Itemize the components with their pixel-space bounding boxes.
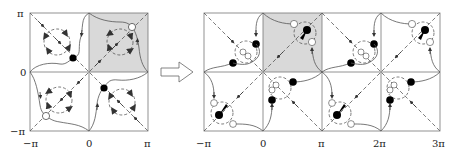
left-x-tick-right: π [144, 138, 151, 149]
right-panel: −π 0 π 2π 3π [196, 13, 445, 149]
left-y-tick-top: π [17, 8, 24, 19]
left-x-tick-mid: 0 [86, 138, 92, 149]
filled-fixed-point [100, 84, 107, 91]
phase-portrait-figure: π 0 −π −π 0 π [0, 0, 456, 154]
open-fixed-point [128, 23, 135, 30]
filled-fixed-point [69, 54, 76, 61]
left-panel: π 0 −π −π 0 π [10, 8, 151, 149]
open-fixed-point [42, 112, 49, 119]
right-x-tick-3pi: 3π [432, 138, 445, 149]
hollow-right-arrow-icon [161, 62, 193, 82]
right-x-tick-zero: 0 [260, 138, 266, 149]
left-y-tick-bottom: −π [10, 126, 25, 137]
right-x-tick-2pi: 2π [373, 138, 386, 149]
vortex-bottom-right [109, 89, 135, 115]
right-x-tick-neg-pi: −π [196, 138, 211, 149]
vortex-bottom-left [46, 87, 72, 113]
right-x-tick-pi: π [318, 138, 325, 149]
vortex-top-left [44, 29, 70, 55]
left-y-tick-mid: 0 [20, 67, 26, 78]
left-x-tick-left: −π [23, 138, 38, 149]
